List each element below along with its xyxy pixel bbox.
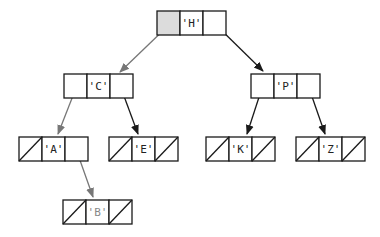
node-value-label: 'E' bbox=[134, 143, 154, 156]
node-value-label: 'P' bbox=[276, 80, 296, 93]
binary-tree-diagram: 'H''C''P''A''E''K''Z''B' bbox=[0, 0, 380, 237]
node-value-label: 'A' bbox=[44, 143, 64, 156]
tree-node-c: 'C' bbox=[64, 74, 133, 98]
node-value-label: 'C' bbox=[89, 80, 109, 93]
tree-node-z: 'Z' bbox=[296, 137, 365, 161]
right-pointer-cell bbox=[203, 11, 226, 35]
tree-node-a: 'A' bbox=[19, 137, 88, 161]
left-pointer-cell bbox=[64, 74, 87, 98]
tree-node-h: 'H' bbox=[157, 11, 226, 35]
left-pointer-cell bbox=[251, 74, 274, 98]
tree-node-e: 'E' bbox=[109, 137, 178, 161]
right-pointer-cell bbox=[110, 74, 133, 98]
node-value-label: 'H' bbox=[182, 17, 202, 30]
tree-node-p: 'P' bbox=[251, 74, 320, 98]
node-value-label: 'B' bbox=[88, 206, 108, 219]
edges-layer bbox=[58, 22, 325, 197]
node-value-label: 'K' bbox=[231, 143, 251, 156]
right-pointer-cell bbox=[297, 74, 320, 98]
node-value-label: 'Z' bbox=[321, 143, 341, 156]
right-pointer-cell bbox=[65, 137, 88, 161]
left-pointer-cell bbox=[157, 11, 180, 35]
nodes-layer: 'H''C''P''A''E''K''Z''B' bbox=[19, 11, 365, 224]
tree-node-b: 'B' bbox=[63, 200, 132, 224]
tree-node-k: 'K' bbox=[206, 137, 275, 161]
